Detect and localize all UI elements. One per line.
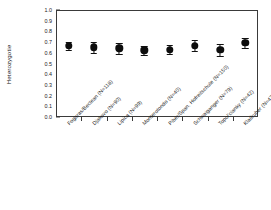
- data-marker: [90, 44, 97, 51]
- error-bar-cap-lower: [91, 53, 98, 54]
- error-bar-cap-lower: [217, 56, 224, 57]
- data-marker: [115, 45, 122, 52]
- error-bar-cap-upper: [217, 44, 224, 45]
- y-tick-label: 0.8: [30, 28, 52, 34]
- y-tick-label: 0.3: [30, 82, 52, 88]
- x-tick-mark: [182, 117, 183, 121]
- data-marker: [216, 46, 223, 53]
- x-tick-mark: [157, 117, 158, 121]
- data-marker: [166, 46, 173, 53]
- error-bar-cap-lower: [242, 48, 249, 49]
- y-tick-label: 0.9: [30, 18, 52, 24]
- y-tick-label: 0.6: [30, 50, 52, 56]
- x-tick-mark: [233, 117, 234, 121]
- heterozygosity-chart: Heterozygotie 1.00.90.80.70.60.50.40.30.…: [0, 0, 271, 210]
- x-tick-mark: [107, 117, 108, 121]
- error-bar-cap-upper: [116, 43, 123, 44]
- error-bar-cap-lower: [116, 54, 123, 55]
- error-bar-cap-lower: [65, 50, 72, 51]
- x-tick-mark: [132, 117, 133, 121]
- data-marker: [242, 39, 249, 46]
- y-tick-label: 0.0: [30, 114, 52, 120]
- error-bar-cap-lower: [192, 51, 199, 52]
- y-tick-label: 0.7: [30, 39, 52, 45]
- y-tick-label: 0.5: [30, 61, 52, 67]
- y-tick-label: 0.1: [30, 103, 52, 109]
- x-tick-mark: [81, 117, 82, 121]
- x-tick-mark: [208, 117, 209, 121]
- y-tick-label: 1.0: [30, 7, 52, 13]
- data-marker: [65, 42, 72, 49]
- y-tick-label: 0.2: [30, 93, 52, 99]
- data-point: [59, 0, 79, 210]
- error-bar-cap-lower: [166, 54, 173, 55]
- y-tick-label: 0.4: [30, 71, 52, 77]
- y-axis-title-text: Heterozygotie: [6, 44, 13, 83]
- y-axis-title: Heterozygotie: [2, 18, 16, 110]
- data-marker: [191, 42, 198, 49]
- error-bar-cap-lower: [141, 55, 148, 56]
- data-marker: [141, 47, 148, 54]
